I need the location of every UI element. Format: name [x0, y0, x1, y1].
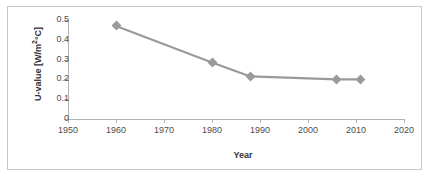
y-tick-label: 0.5: [39, 15, 69, 24]
x-tick-label: 1970: [144, 125, 184, 135]
plot-area: [68, 20, 404, 119]
x-tick-mark: [356, 119, 357, 123]
x-tick-label: 1990: [240, 125, 280, 135]
x-tick-label: 2010: [336, 125, 376, 135]
x-axis-title: Year: [75, 150, 411, 160]
x-tick-label: 1950: [48, 125, 88, 135]
x-tick-mark: [308, 119, 309, 123]
x-tick-mark: [212, 119, 213, 123]
chart-frame: 0.50.40.30.20.10 19501960197019801990200…: [7, 6, 422, 170]
x-tick-mark: [260, 119, 261, 123]
x-tick-label: 2020: [384, 125, 424, 135]
series-line: [68, 20, 404, 119]
x-tick-label: 1980: [192, 125, 232, 135]
y-tick-label: 0.4: [39, 35, 69, 44]
y-tick-label: 0.1: [39, 94, 69, 103]
y-tick-label: 0.2: [39, 74, 69, 83]
x-tick-label: 1960: [96, 125, 136, 135]
x-tick-mark: [116, 119, 117, 123]
x-tick-mark: [404, 119, 405, 123]
y-tick-label: 0: [39, 114, 69, 123]
y-axis-title: U-value [W/m2°C]: [33, 9, 43, 119]
x-axis-line: [68, 119, 404, 120]
x-tick-label: 2000: [288, 125, 328, 135]
x-tick-mark: [164, 119, 165, 123]
y-tick-label: 0.3: [39, 55, 69, 64]
